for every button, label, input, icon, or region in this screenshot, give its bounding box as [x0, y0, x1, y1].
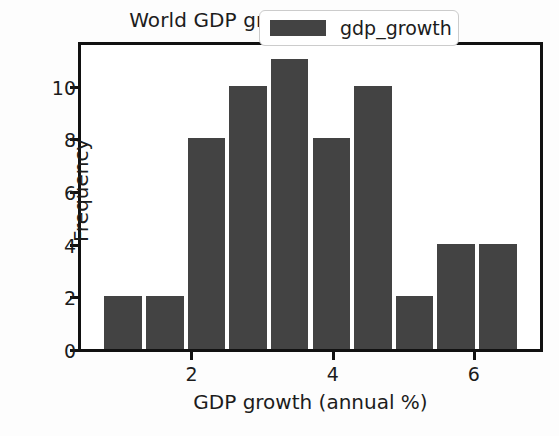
y-tick-label: 8	[64, 129, 76, 151]
y-tick-label: 4	[64, 235, 76, 257]
x-tick-mark	[332, 349, 335, 360]
bar	[227, 86, 269, 349]
x-tick-label: 6	[468, 363, 480, 385]
x-tick-label: 4	[327, 363, 339, 385]
bar	[311, 138, 353, 349]
bar	[394, 296, 436, 349]
bar	[477, 244, 519, 349]
bar	[186, 138, 228, 349]
x-tick-mark	[473, 349, 476, 360]
y-tick-label: 2	[64, 287, 76, 309]
bar	[435, 244, 477, 349]
y-tick-label: 10	[52, 77, 76, 99]
chart-legend: gdp_growth	[259, 10, 459, 46]
chart-figure: World GDP growth (annual %) Frequency 02…	[0, 0, 559, 436]
legend-swatch-gdp-growth	[270, 20, 326, 36]
bar	[352, 86, 394, 349]
x-tick-label: 2	[185, 363, 197, 385]
bar	[269, 59, 311, 349]
plot-area: Frequency 0246810 246	[78, 42, 543, 352]
x-tick-mark	[190, 349, 193, 360]
bar	[144, 296, 186, 349]
y-tick-label: 6	[64, 182, 76, 204]
bar	[102, 296, 144, 349]
y-tick-label: 0	[64, 340, 76, 362]
x-axis-label: GDP growth (annual %)	[78, 390, 543, 414]
legend-label-gdp-growth: gdp_growth	[340, 17, 452, 39]
bars-container	[81, 45, 540, 349]
